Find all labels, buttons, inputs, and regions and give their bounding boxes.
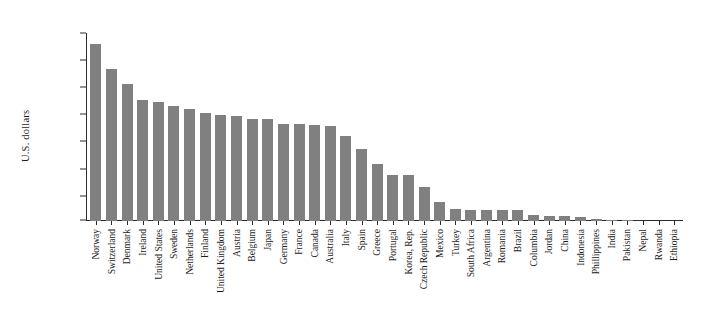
bar-slot [229,30,245,221]
bar-slot [494,30,510,221]
x-tick-mark [346,221,347,225]
x-tick-mark [127,221,128,225]
x-tick-label: Brazil [510,227,526,313]
bar [481,210,492,221]
bar [356,149,367,221]
x-tick-mark [299,221,300,225]
bar-slot [432,30,448,221]
x-tick-label: United Kingdom [213,227,229,313]
x-tick-label: India [604,227,620,313]
x-tick-mark [659,221,660,225]
x-tick-label: Ireland [135,227,151,313]
x-tick-mark [111,221,112,225]
bar-slot [291,30,307,221]
x-tick-mark [174,221,175,225]
bar-slot [541,30,557,221]
x-tick-mark [580,221,581,225]
bar-slot [166,30,182,221]
x-tick-mark [96,221,97,225]
bar-slot [651,30,667,221]
x-axis-labels: NorwaySwitzerlandDenmarkIrelandUnited St… [88,227,682,313]
x-tick-mark [549,221,550,225]
bar [106,69,117,221]
bar-slot [276,30,292,221]
x-tick-mark [565,221,566,225]
x-tick-mark [674,221,675,225]
bar-slot [463,30,479,221]
x-tick-label: Czech Republic [416,227,432,313]
x-tick-mark [455,221,456,225]
bar-slot [416,30,432,221]
bar [372,164,383,221]
x-tick-mark [330,221,331,225]
bar-slot [369,30,385,221]
x-tick-mark [471,221,472,225]
x-tick-mark [518,221,519,225]
x-tick-label: Indonesia [573,227,589,313]
bar [137,100,148,221]
y-axis-spine [86,33,87,221]
x-tick-mark [252,221,253,225]
x-tick-label: France [291,227,307,313]
x-tick-mark [502,221,503,225]
x-tick-label: Japan [260,227,276,313]
bar-slot [604,30,620,221]
x-tick-label: Finland [197,227,213,313]
x-tick-label: Sweden [166,227,182,313]
x-tick-label: Belgium [244,227,260,313]
x-tick-mark [424,221,425,225]
bar-slot [338,30,354,221]
x-tick-mark [143,221,144,225]
bar-slot [479,30,495,221]
x-tick-label: Columbia [526,227,542,313]
bar [419,187,430,221]
x-tick-mark [487,221,488,225]
x-tick-label: Pakistan [619,227,635,313]
bar [325,126,336,221]
x-tick-mark [393,221,394,225]
bar [434,202,445,222]
bar-slot [526,30,542,221]
bar-slot [635,30,651,221]
x-tick-label: South Africa [463,227,479,313]
bar [153,102,164,221]
x-tick-mark [408,221,409,225]
x-tick-mark [221,221,222,225]
bar [403,175,414,221]
x-tick-mark [377,221,378,225]
bar [184,109,195,221]
x-tick-label: Romania [494,227,510,313]
bar-slot [619,30,635,221]
bar [309,125,320,221]
y-axis: $70,000$60,000$50,000$40,000$30,000$20,0… [0,0,90,316]
plot-area [88,30,682,221]
bar-slot [588,30,604,221]
x-tick-mark [440,221,441,225]
bar-slot [197,30,213,221]
bar [340,136,351,221]
x-tick-label: Argentina [479,227,495,313]
x-tick-label: Italy [338,227,354,313]
x-tick-label: Denmark [119,227,135,313]
x-tick-label: China [557,227,573,313]
bar [247,119,258,221]
bar [450,209,461,221]
bar-slot [666,30,682,221]
x-tick-label: Netherlands [182,227,198,313]
bar [168,106,179,221]
bar-slot [244,30,260,221]
bar [512,210,523,221]
x-tick-label: Mexico [432,227,448,313]
bar-slot [557,30,573,221]
x-tick-label: United States [151,227,167,313]
bar-slot [573,30,589,221]
x-tick-label: Canada [307,227,323,313]
x-tick-mark [283,221,284,225]
x-tick-mark [237,221,238,225]
bar-slot [182,30,198,221]
bar-slot [260,30,276,221]
x-tick-label: Jordan [541,227,557,313]
bar [90,44,101,222]
x-tick-mark [643,221,644,225]
x-tick-label: Turkey [448,227,464,313]
